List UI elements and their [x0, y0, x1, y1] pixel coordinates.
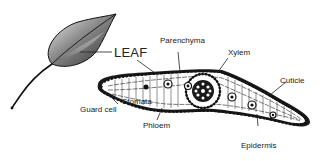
label-phloem: Phloem: [143, 122, 170, 130]
label-parenchyma: Parenchyma: [160, 37, 205, 45]
leaf-diagram: LEAF Parenchyma Xylem Cuticle Guard cell…: [0, 0, 332, 161]
label-leaf: LEAF: [114, 46, 147, 59]
label-guard-cell: Guard cell: [80, 106, 116, 114]
label-epidermis: Epidermis: [241, 142, 277, 150]
leaf-illustration: [11, 14, 116, 109]
label-xylem: Xylem: [228, 49, 250, 57]
label-cuticle: Cuticle: [280, 77, 304, 85]
label-stomata: Stomata: [122, 98, 152, 106]
